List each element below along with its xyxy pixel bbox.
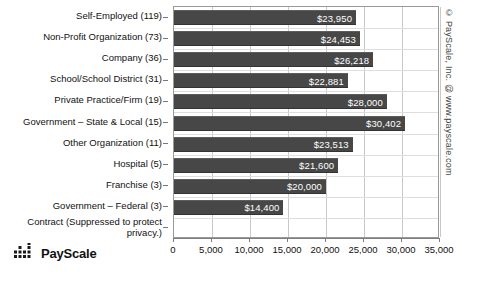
- x-axis-tick-label: 20,000: [310, 244, 339, 255]
- x-axis-tick-label: 35,000: [424, 244, 453, 255]
- payscale-logo-text: PayScale: [41, 246, 97, 261]
- category-label: Company (36): [0, 53, 162, 64]
- payscale-watermark: © PayScale, Inc. @ www.payscale.com: [440, 8, 454, 233]
- bar-value-label: $23,513: [314, 139, 349, 150]
- category-tick-mark: [163, 206, 168, 207]
- category-label: Self-Employed (119): [0, 11, 162, 22]
- x-axis: 05,00010,00015,00020,00025,00030,00035,0…: [173, 238, 439, 268]
- x-axis-tick-label: 25,000: [348, 244, 377, 255]
- bar: $23,950: [174, 10, 356, 25]
- category-label: Franchise (3): [0, 180, 162, 191]
- category-tick-mark: [163, 80, 168, 81]
- x-axis-tick: [211, 238, 212, 242]
- category-tick-mark: [163, 101, 168, 102]
- x-axis-tick-label: 15,000: [272, 244, 301, 255]
- x-axis-tick-label: 0: [170, 244, 175, 255]
- bar: $28,000: [174, 94, 387, 109]
- bar-value-label: $21,600: [299, 160, 334, 171]
- x-axis-tick-label: 10,000: [234, 244, 263, 255]
- x-axis-tick: [325, 238, 326, 242]
- bar: $20,000: [174, 179, 326, 194]
- bar: $24,453: [174, 31, 360, 46]
- x-axis-tick-label: 30,000: [386, 244, 415, 255]
- category-tick-mark: [163, 59, 168, 60]
- bar-value-label: $22,881: [309, 75, 344, 86]
- bar: $21,600: [174, 158, 338, 173]
- category-label: Government – State & Local (15): [0, 117, 162, 128]
- bar: $14,400: [174, 200, 283, 215]
- category-label: School/School District (31): [0, 74, 162, 85]
- category-label: Other Organization (11): [0, 138, 162, 149]
- category-tick-mark: [163, 122, 168, 123]
- category-tick-mark: [163, 38, 168, 39]
- gridline-horizontal: [174, 91, 438, 92]
- gridline-horizontal: [174, 197, 438, 198]
- payscale-salary-bar-chart: Self-Employed (119)Non-Profit Organizati…: [0, 0, 480, 281]
- bar-value-label: $28,000: [348, 96, 383, 107]
- x-axis-tick: [363, 238, 364, 242]
- category-tick-mark: [163, 227, 168, 228]
- bar: $22,881: [174, 73, 348, 88]
- category-tick-mark: [163, 164, 168, 165]
- gridline-horizontal: [174, 49, 438, 50]
- bar: $26,218: [174, 52, 373, 67]
- category-label: Contract (Suppressed to protect privacy.…: [0, 216, 162, 238]
- bar-value-label: $24,453: [321, 33, 356, 44]
- plot-area: $23,950$24,453$26,218$22,881$28,000$30,4…: [173, 6, 439, 238]
- category-label: Government – Federal (3): [0, 201, 162, 212]
- x-axis-line: [173, 238, 439, 239]
- gridline-horizontal: [174, 155, 438, 156]
- category-tick-mark: [163, 185, 168, 186]
- category-label: Non-Profit Organization (73): [0, 32, 162, 43]
- bar: $30,402: [174, 116, 405, 131]
- x-axis-tick: [439, 238, 440, 242]
- bar-value-label: $20,000: [287, 181, 322, 192]
- gridline-horizontal: [174, 218, 438, 219]
- x-axis-tick: [249, 238, 250, 242]
- bar-value-label: $26,218: [334, 54, 369, 65]
- x-axis-tick: [401, 238, 402, 242]
- gridline-horizontal: [174, 70, 438, 71]
- category-label: Private Practice/Firm (19): [0, 95, 162, 106]
- bar-value-label: $30,402: [366, 118, 401, 129]
- x-axis-tick: [287, 238, 288, 242]
- category-tick-mark: [163, 143, 168, 144]
- category-axis-labels: Self-Employed (119)Non-Profit Organizati…: [0, 6, 168, 238]
- gridline-horizontal: [174, 28, 438, 29]
- gridline-horizontal: [174, 176, 438, 177]
- x-axis-tick-label: 5,000: [199, 244, 223, 255]
- category-tick-mark: [163, 17, 168, 18]
- payscale-dot-matrix-icon: [14, 243, 34, 264]
- bar-value-label: $14,400: [244, 202, 279, 213]
- bar-value-label: $23,950: [317, 12, 352, 23]
- x-axis-tick: [173, 238, 174, 242]
- gridline-horizontal: [174, 134, 438, 135]
- bar: $23,513: [174, 137, 353, 152]
- payscale-logo: PayScale: [14, 243, 97, 264]
- gridline-horizontal: [174, 112, 438, 113]
- category-label: Hospital (5): [0, 159, 162, 170]
